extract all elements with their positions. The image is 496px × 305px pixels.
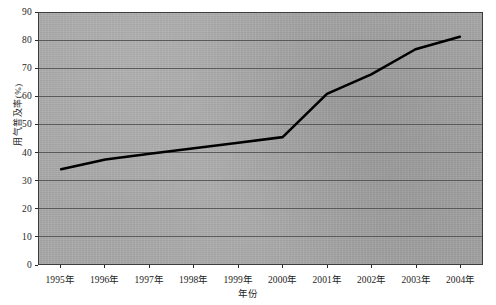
x-axis-tick-labels: 1995年1996年1997年1998年1999年2000年2001年2002年… [0, 0, 496, 305]
x-tick-label: 2003年 [402, 272, 432, 286]
x-tick-mark [104, 265, 105, 268]
line-chart: 0102030405060708090 1995年1996年1997年1998年… [0, 0, 496, 305]
x-tick-mark [149, 265, 150, 268]
x-tick-label: 1997年 [135, 272, 165, 286]
x-tick-label: 2001年 [313, 272, 343, 286]
x-tick-label: 1995年 [46, 272, 76, 286]
x-tick-mark [238, 265, 239, 268]
x-tick-label: 2004年 [446, 272, 476, 286]
x-tick-label: 2000年 [268, 272, 298, 286]
x-tick-mark [282, 265, 283, 268]
x-tick-label: 1999年 [224, 272, 254, 286]
x-tick-label: 1998年 [179, 272, 209, 286]
x-tick-mark [193, 265, 194, 268]
x-tick-mark [416, 265, 417, 268]
x-tick-mark [371, 265, 372, 268]
x-tick-label: 1996年 [90, 272, 120, 286]
x-tick-mark [460, 265, 461, 268]
x-axis-title: 年份 [0, 286, 496, 300]
y-axis-title: 用气普及率(%) [11, 60, 24, 170]
x-tick-label: 2002年 [357, 272, 387, 286]
x-tick-mark [60, 265, 61, 268]
x-tick-mark [327, 265, 328, 268]
